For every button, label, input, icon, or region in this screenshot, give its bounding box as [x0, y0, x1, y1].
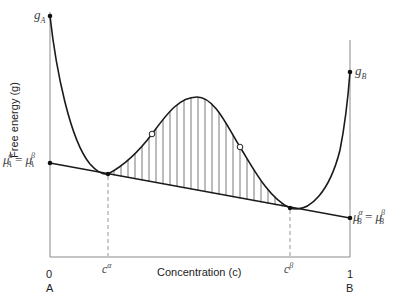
x-tick-component-a: A [46, 282, 53, 294]
hatched-region [114, 60, 282, 230]
x-axis-label: Concentration (c) [157, 266, 241, 278]
mu-sup: β [31, 151, 35, 160]
equals-sign: = [15, 152, 22, 167]
g-a-label: gA [34, 7, 45, 25]
x-tick-component-b: B [346, 282, 353, 294]
g-b-point [348, 70, 353, 75]
mu-sub: A [29, 160, 34, 169]
equals-sign: = [365, 209, 372, 224]
mu-b-point [348, 216, 353, 221]
free-energy-diagram [0, 0, 400, 301]
c-alpha-superscript: α [107, 261, 111, 270]
mu-sub: A [7, 160, 12, 169]
common-tangent-line [50, 163, 350, 218]
free-energy-curve [50, 16, 350, 209]
mu-sub: B [379, 217, 384, 226]
g-a-point [48, 14, 53, 19]
c-beta-superscript: β [289, 261, 293, 270]
x-tick-0: 0 [46, 268, 52, 280]
mu-sup: α [9, 151, 13, 160]
inflection-point-right [237, 144, 243, 150]
mu-sup: α [359, 208, 363, 217]
x-tick-1: 1 [347, 268, 353, 280]
mu-sup: β [381, 208, 385, 217]
g-b-label: gB [355, 63, 366, 81]
g-b-subscript: B [362, 72, 367, 81]
mu-a-point [48, 161, 53, 166]
mu-a-equality-label: μαA = μβA [3, 152, 34, 168]
mu-sub: B [357, 217, 362, 226]
c-beta-label: cβ [284, 261, 293, 277]
g-a-subscript: A [41, 16, 46, 25]
mu-b-equality-label: μαB = μβB [353, 209, 384, 225]
c-alpha-label: cα [102, 261, 112, 277]
tangent-point-alpha [106, 172, 110, 176]
y-axis-label: Free energy (g) [8, 82, 20, 158]
tangent-point-beta [288, 206, 292, 210]
inflection-point-left [149, 131, 155, 137]
